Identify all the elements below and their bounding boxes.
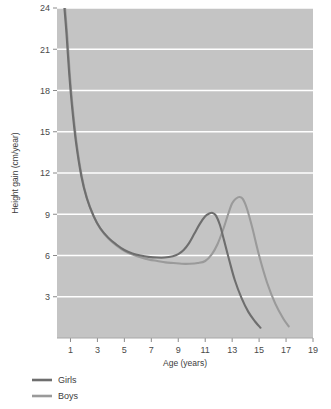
x-tick-label: 7: [149, 345, 154, 355]
y-axis-title: Height gain (cm/year): [10, 132, 20, 213]
x-axis-title: Age (years): [163, 358, 207, 368]
x-tick-label: 15: [254, 345, 264, 355]
legend-label-boys[interactable]: Boys: [58, 391, 79, 401]
x-tick-label: 11: [201, 345, 210, 355]
y-tick-label: 3: [45, 292, 50, 302]
chart-canvas: 3691215182124 135791113151719 Height gai…: [0, 0, 331, 409]
x-tick-label: 17: [281, 345, 291, 355]
x-tick-label: 9: [176, 345, 181, 355]
y-tick-label: 21: [40, 45, 50, 55]
y-tick-label: 24: [40, 3, 50, 13]
x-tick-label: 19: [308, 345, 318, 355]
x-tick-label: 13: [227, 345, 237, 355]
x-tick-label: 1: [68, 345, 73, 355]
y-tick-label: 15: [40, 127, 50, 137]
y-tick-label: 6: [45, 251, 50, 261]
legend-label-girls[interactable]: Girls: [58, 375, 77, 385]
growth-velocity-chart: 3691215182124 135791113151719 Height gai…: [0, 0, 331, 409]
y-tick-label: 12: [40, 168, 50, 178]
y-tick-label: 18: [40, 86, 50, 96]
y-tick-label: 9: [45, 210, 50, 220]
x-tick-label: 5: [122, 345, 127, 355]
x-tick-label: 3: [95, 345, 100, 355]
